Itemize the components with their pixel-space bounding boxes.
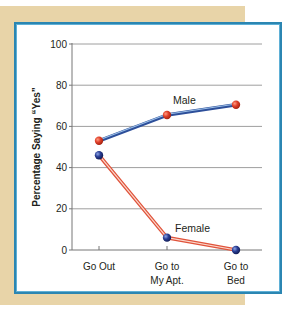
data-point-female xyxy=(95,151,103,159)
series-label-male: Male xyxy=(173,94,196,106)
data-point-female xyxy=(163,233,171,241)
data-point-female xyxy=(232,246,240,254)
x-category-label: Go to xyxy=(155,261,180,272)
series-line-male xyxy=(99,105,236,141)
series-label-female: Female xyxy=(175,222,210,234)
y-tick-label: 100 xyxy=(50,39,67,50)
y-tick-label: 80 xyxy=(56,80,68,91)
y-tick-label: 20 xyxy=(56,203,68,214)
x-category-label: My Apt. xyxy=(150,275,183,286)
x-category-label: Bed xyxy=(227,275,245,286)
x-category-label: Go to xyxy=(224,261,249,272)
y-tick-label: 60 xyxy=(56,121,68,132)
x-category-label: Go Out xyxy=(83,261,115,272)
data-point-male xyxy=(232,101,240,109)
y-tick-label: 0 xyxy=(61,245,67,256)
y-axis-title: Percentage Saying “Yes” xyxy=(31,87,42,207)
y-tick-label: 40 xyxy=(56,162,68,173)
line-chart: 020406080100Go OutGo toMy Apt.Go toBedPe… xyxy=(0,0,293,314)
data-point-male xyxy=(163,111,171,119)
data-point-male xyxy=(95,137,103,145)
